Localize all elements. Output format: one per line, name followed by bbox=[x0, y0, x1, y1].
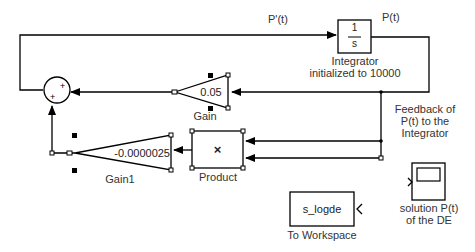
product-label: Product bbox=[190, 171, 246, 183]
feedback-annotation-line3: Integrator bbox=[380, 127, 470, 139]
product-symbol: × bbox=[192, 142, 243, 157]
integrator-denominator: s bbox=[338, 38, 371, 49]
signal-label-output: P(t) bbox=[382, 11, 400, 23]
svg-text:+: + bbox=[60, 81, 65, 91]
gain1-value: -0.0000025 bbox=[110, 147, 170, 159]
integrator-numerator: 1 bbox=[338, 22, 371, 33]
scope-label-line1: solution P(t) bbox=[394, 202, 464, 214]
to-workspace-label: To Workspace bbox=[280, 229, 364, 241]
feedback-annotation-line1: Feedback of bbox=[380, 103, 470, 115]
scope-block[interactable] bbox=[408, 163, 445, 200]
signal-label-derivative: P'(t) bbox=[268, 13, 288, 25]
signal-gain1-to-sum[interactable] bbox=[52, 106, 75, 153]
feedback-annotation-line2: P(t) to the bbox=[380, 115, 470, 127]
to-workspace-variable: s_logde bbox=[290, 203, 354, 215]
sum-block[interactable]: + + bbox=[44, 77, 70, 103]
scope-label-line2: of the DE bbox=[394, 214, 464, 226]
gain-value: 0.05 bbox=[194, 86, 228, 98]
gain1-label: Gain1 bbox=[100, 173, 140, 185]
gain-label: Gain bbox=[185, 110, 225, 122]
integrator-label-line2: initialized to 10000 bbox=[300, 67, 410, 79]
integrator-label-line1: Integrator bbox=[300, 55, 410, 67]
svg-text:+: + bbox=[50, 92, 55, 102]
